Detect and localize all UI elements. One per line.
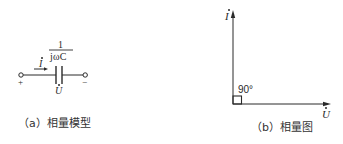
- impedance-denominator: jωC: [50, 52, 67, 62]
- current-dot-a: [41, 57, 43, 59]
- angle-label: 90°: [238, 85, 253, 95]
- current-label-a: I: [39, 59, 42, 69]
- voltage-dot-b: [325, 107, 327, 109]
- caption-a: （a）相量模型: [18, 118, 91, 129]
- voltage-label-a: U: [55, 86, 62, 96]
- caption-b: （b）相量图: [251, 122, 313, 133]
- impedance-numerator: 1: [58, 40, 63, 50]
- impedance-denominator-text: jωC: [50, 51, 67, 62]
- voltage-dot-a: [58, 84, 60, 86]
- minus-sign: −: [82, 78, 87, 87]
- current-axis-label: I: [225, 11, 229, 22]
- plus-sign: +: [18, 78, 23, 87]
- current-dot-b: [228, 9, 230, 11]
- voltage-axis-label: U: [322, 109, 330, 120]
- right-angle-marker: [233, 96, 242, 104]
